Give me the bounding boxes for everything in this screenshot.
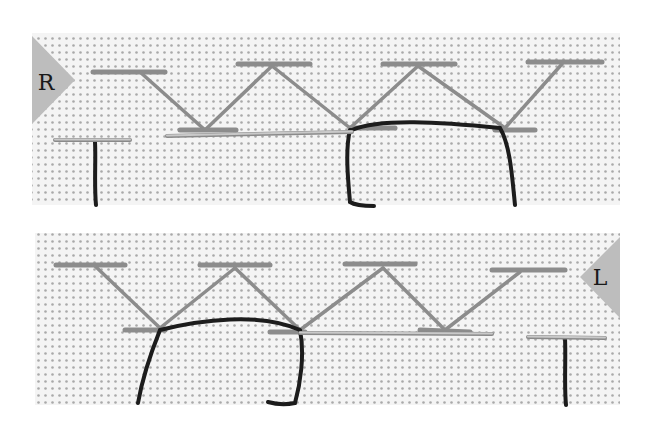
needle <box>528 337 605 338</box>
badge-label: L <box>593 265 608 290</box>
needle <box>300 333 492 334</box>
fabric <box>32 33 620 205</box>
panel-top: R <box>32 33 620 206</box>
fabric <box>35 233 620 405</box>
panel-bottom: L <box>35 233 620 405</box>
badge-label: R <box>38 70 56 95</box>
instruction-figure: RL <box>0 0 655 435</box>
